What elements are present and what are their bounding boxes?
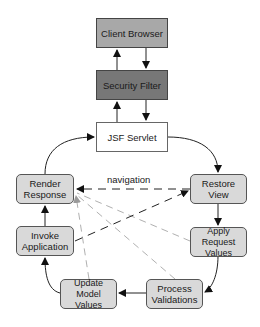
node-render-response-label: Render Response bbox=[24, 178, 67, 200]
node-process-validations: Process Validations bbox=[146, 279, 203, 309]
edge-apply-to-render-dashed bbox=[77, 193, 190, 241]
edge-validations-to-render-dashed bbox=[77, 195, 175, 279]
node-process-validations-label: Process Validations bbox=[152, 283, 198, 305]
edge-update-to-invoke bbox=[45, 258, 60, 293]
node-jsf-servlet-label: JSF Servlet bbox=[107, 132, 156, 143]
connectors-layer bbox=[0, 0, 260, 327]
node-security-filter-label: Security Filter bbox=[103, 80, 161, 91]
node-restore-view-label: Restore View bbox=[202, 178, 235, 200]
node-update-model-values-label: Update Model Values bbox=[61, 278, 116, 311]
node-render-response: Render Response bbox=[16, 174, 74, 204]
node-client-browser-label: Client Browser bbox=[101, 28, 163, 39]
edge-invoke-to-restore-dashed bbox=[75, 191, 188, 241]
node-apply-request-values-label: Apply Request Values bbox=[191, 226, 246, 259]
node-jsf-servlet: JSF Servlet bbox=[96, 122, 168, 152]
node-invoke-application: Invoke Application bbox=[16, 226, 74, 256]
node-update-model-values: Update Model Values bbox=[60, 279, 117, 309]
node-apply-request-values: Apply Request Values bbox=[190, 227, 247, 257]
node-restore-view: Restore View bbox=[190, 174, 247, 204]
edge-servlet-to-restore-view bbox=[168, 137, 218, 172]
node-client-browser: Client Browser bbox=[96, 18, 168, 48]
node-security-filter: Security Filter bbox=[96, 70, 168, 100]
jsf-lifecycle-diagram: Client Browser Security Filter JSF Servl… bbox=[0, 0, 260, 327]
edge-apply-to-validations bbox=[205, 256, 218, 292]
edge-label-navigation: navigation bbox=[107, 174, 150, 185]
node-invoke-application-label: Invoke Application bbox=[22, 230, 68, 252]
edge-render-to-servlet bbox=[45, 137, 94, 174]
edge-update-to-render-dashed bbox=[76, 196, 89, 279]
